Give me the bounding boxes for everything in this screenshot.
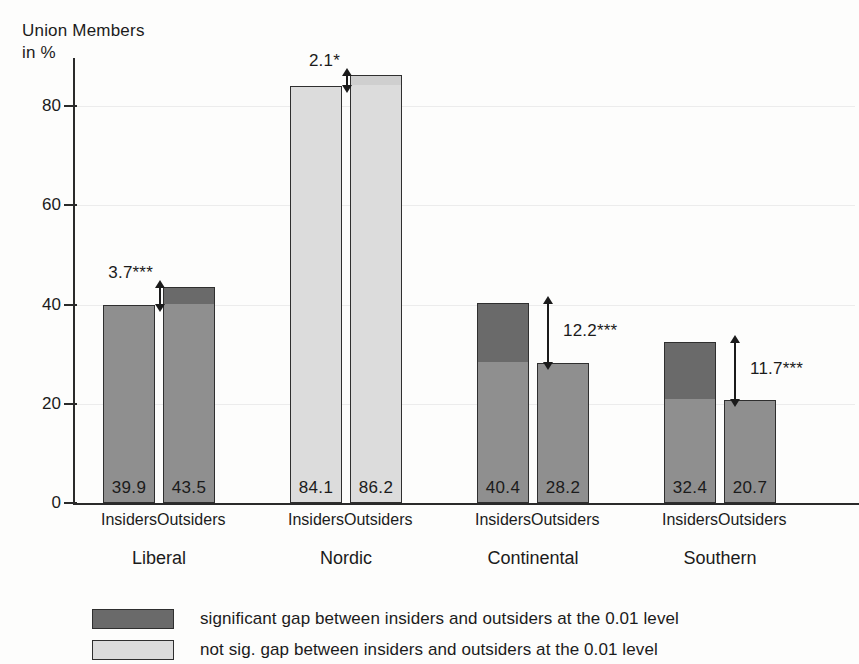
bar-value-label: 39.9	[104, 478, 154, 498]
arrow-head-down-icon	[543, 362, 553, 370]
gridline	[75, 106, 855, 107]
y-axis-line	[73, 58, 75, 504]
arrow-head-up-icon	[730, 335, 740, 343]
arrow-head-up-icon	[155, 280, 165, 288]
group-label-southern: Southern	[644, 548, 796, 569]
arrow-head-up-icon	[342, 68, 352, 76]
bar-continental-insiders[interactable]: 40.4	[477, 303, 529, 503]
legend-swatch-not-significant	[92, 640, 174, 660]
bar-value-label: 32.4	[665, 478, 715, 498]
y-axis-tick-label: 0	[52, 493, 61, 513]
category-label-insiders: Insiders	[97, 511, 161, 529]
bar-southern-insiders[interactable]: 32.4	[664, 342, 716, 503]
y-axis-tick	[64, 502, 77, 504]
group-label-liberal: Liberal	[83, 548, 235, 569]
category-label-insiders: Insiders	[284, 511, 348, 529]
bar-value-label: 28.2	[538, 478, 588, 498]
bar-base-segment	[104, 305, 154, 502]
category-label-insiders: Insiders	[658, 511, 722, 529]
gap-arrow	[734, 342, 736, 400]
gap-label-nordic: 2.1*	[268, 51, 340, 71]
legend-label-significant: significant gap between insiders and out…	[200, 609, 679, 629]
arrow-head-up-icon	[543, 296, 553, 304]
y-axis-tick-label: 60	[42, 195, 61, 215]
chart-legend: significant gap between insiders and out…	[92, 606, 792, 664]
group-label-nordic: Nordic	[270, 548, 422, 569]
bar-liberal-outsiders[interactable]: 43.5	[163, 287, 215, 503]
bar-base-segment	[291, 86, 341, 502]
y-axis-tick	[64, 304, 77, 306]
bar-southern-outsiders[interactable]: 20.7	[724, 400, 776, 503]
bar-value-label: 86.2	[351, 478, 401, 498]
y-axis-tick	[64, 105, 77, 107]
gap-arrow	[159, 287, 161, 305]
y-axis-tick	[64, 403, 77, 405]
arrow-head-down-icon	[342, 85, 352, 93]
gap-label-southern: 11.7***	[750, 359, 803, 379]
legend-label-not-significant: not sig. gap between insiders and outsid…	[200, 640, 658, 660]
bar-value-label: 43.5	[164, 478, 214, 498]
bar-nordic-outsiders[interactable]: 86.2	[350, 75, 402, 503]
bar-continental-outsiders[interactable]: 28.2	[537, 363, 589, 503]
plot-area: 020406080 39.943.584.186.240.428.232.420…	[73, 58, 859, 505]
arrow-head-down-icon	[155, 304, 165, 312]
x-axis-line	[73, 503, 859, 505]
legend-item: significant gap between insiders and out…	[92, 606, 792, 631]
y-axis-tick-label: 80	[42, 96, 61, 116]
gap-label-continental: 12.2***	[563, 321, 617, 341]
bar-gap-segment	[478, 304, 528, 365]
bar-value-label: 84.1	[291, 478, 341, 498]
arrow-head-down-icon	[730, 399, 740, 407]
bar-value-label: 40.4	[478, 478, 528, 498]
bar-nordic-insiders[interactable]: 84.1	[290, 86, 342, 503]
bar-base-segment	[351, 85, 401, 502]
bar-liberal-insiders[interactable]: 39.9	[103, 305, 155, 503]
bar-base-segment	[164, 304, 214, 502]
bar-gap-segment	[665, 343, 715, 401]
y-axis-tick	[64, 204, 77, 206]
chart-root: Union Members in % 020406080 39.943.584.…	[0, 0, 859, 664]
category-label-outsiders: Outsiders	[344, 511, 408, 529]
bar-value-label: 20.7	[725, 478, 775, 498]
gap-arrow	[346, 75, 348, 85]
category-label-outsiders: Outsiders	[531, 511, 595, 529]
y-axis-tick-label: 20	[42, 394, 61, 414]
category-label-insiders: Insiders	[471, 511, 535, 529]
legend-item: not sig. gap between insiders and outsid…	[92, 637, 792, 662]
y-axis-tick-label: 40	[42, 295, 61, 315]
group-label-continental: Continental	[457, 548, 609, 569]
legend-swatch-significant	[92, 609, 174, 629]
category-label-outsiders: Outsiders	[718, 511, 782, 529]
gap-label-liberal: 3.7***	[81, 263, 153, 283]
gridline	[75, 205, 855, 206]
category-label-outsiders: Outsiders	[157, 511, 221, 529]
gap-arrow	[547, 303, 549, 364]
